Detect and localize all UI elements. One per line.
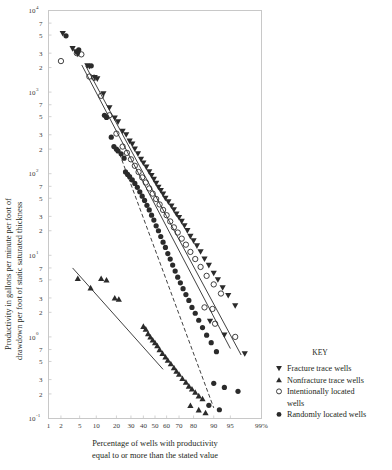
- legend-label-continued: wells: [287, 399, 304, 408]
- y-tick-label: 7: [39, 183, 43, 191]
- data-point: [209, 340, 214, 345]
- y-tick-label: 10: [29, 170, 37, 178]
- data-point: [206, 403, 211, 408]
- data-point: [217, 407, 222, 412]
- legend-label: Randomly located wells: [287, 410, 366, 419]
- x-tick-label: 50: [152, 422, 160, 430]
- data-point: [158, 234, 163, 239]
- x-tick-label: 95: [227, 422, 235, 430]
- data-point: [193, 311, 198, 316]
- data-point: [200, 325, 205, 330]
- data-point: [186, 298, 191, 303]
- y-tick-label: 5: [39, 276, 43, 284]
- y-tick-exponent: -1: [36, 413, 41, 418]
- y-tick-label: 3: [39, 213, 43, 221]
- data-point: [211, 381, 216, 386]
- data-point: [175, 275, 180, 280]
- legend-label: Nonfracture trace wells: [287, 376, 364, 385]
- y-tick-label: 10: [29, 252, 37, 260]
- data-point: [144, 203, 149, 208]
- data-point: [170, 262, 175, 267]
- y-tick-label: 7: [39, 265, 43, 273]
- x-tick-label: 60: [163, 422, 171, 430]
- data-point: [178, 280, 183, 285]
- x-tick-label: 90: [210, 422, 218, 430]
- figure-background: [0, 0, 392, 470]
- data-point: [235, 389, 240, 394]
- x-tick-label: 30: [127, 422, 135, 430]
- data-point: [165, 251, 170, 256]
- legend-marker-circle-filled: [277, 412, 282, 417]
- y-axis-title-line2: drawdown per foot of static saturated th…: [15, 202, 24, 360]
- y-tick-label: 10: [29, 89, 37, 97]
- y-tick-label: 10: [29, 334, 37, 342]
- data-point: [135, 185, 140, 190]
- data-point: [89, 63, 94, 68]
- data-point: [154, 223, 159, 228]
- data-point: [147, 207, 152, 212]
- data-point: [156, 228, 161, 233]
- x-tick-label: 1: [47, 422, 51, 430]
- data-point: [149, 213, 154, 218]
- data-point: [137, 189, 142, 194]
- y-tick-label: 3: [39, 376, 43, 384]
- data-point: [109, 135, 114, 140]
- data-point: [151, 217, 156, 222]
- y-tick-label: 5: [39, 358, 43, 366]
- y-tick-label: 2: [39, 64, 43, 72]
- y-tick-label: 7: [39, 20, 43, 28]
- x-tick-label: 40: [140, 422, 148, 430]
- y-tick-label: 10: [29, 415, 37, 423]
- data-point: [142, 198, 147, 203]
- x-axis-title-line1: Percentage of wells with productivity: [92, 439, 218, 448]
- x-tick-label: 70: [176, 422, 184, 430]
- y-tick-label: 5: [39, 113, 43, 121]
- data-point: [163, 245, 168, 250]
- y-tick-label: 7: [39, 101, 43, 109]
- data-point: [121, 156, 126, 161]
- x-tick-label: 80: [190, 422, 198, 430]
- probability-plot-figure: 1047532103753210275321017532100753210-1 …: [0, 0, 392, 470]
- y-tick-label: 2: [39, 146, 43, 154]
- legend-label: Intentionally located: [287, 387, 355, 396]
- chart-svg: 1047532103753210275321017532100753210-1 …: [0, 0, 392, 470]
- y-tick-label: 5: [39, 32, 43, 40]
- y-tick-label: 7: [39, 346, 43, 354]
- y-tick-label: 2: [39, 391, 43, 399]
- data-point: [180, 286, 185, 291]
- data-point: [183, 292, 188, 297]
- x-axis-title-line2: equal to or more than the stated value: [92, 451, 218, 460]
- data-point: [104, 115, 109, 120]
- data-point: [160, 240, 165, 245]
- data-point: [189, 305, 194, 310]
- data-point: [196, 318, 201, 323]
- x-tick-label: 2: [59, 422, 63, 430]
- y-tick-label: 2: [39, 227, 43, 235]
- data-point: [222, 385, 227, 390]
- data-point: [168, 256, 173, 261]
- x-tick-label: 5: [78, 422, 82, 430]
- data-point: [204, 333, 209, 338]
- data-point: [63, 33, 68, 38]
- y-tick-label: 5: [39, 195, 43, 203]
- y-tick-label: 3: [39, 131, 43, 139]
- data-point: [119, 151, 124, 156]
- y-tick-label: 2: [39, 309, 43, 317]
- x-tick-label: 99%: [255, 422, 268, 430]
- y-tick-label: 3: [39, 50, 43, 58]
- data-point: [76, 47, 81, 52]
- x-tick-label: 10: [93, 422, 101, 430]
- y-axis-title-line1: Productivity in gallons per minute per f…: [4, 198, 13, 350]
- legend-label: Fracture trace wells: [287, 364, 352, 373]
- y-tick-label: 10: [29, 7, 37, 15]
- data-point: [173, 269, 178, 274]
- x-tick-label: 20: [113, 422, 121, 430]
- data-point: [214, 349, 219, 354]
- legend-title: KEY: [312, 348, 328, 357]
- y-tick-label: 3: [39, 295, 43, 303]
